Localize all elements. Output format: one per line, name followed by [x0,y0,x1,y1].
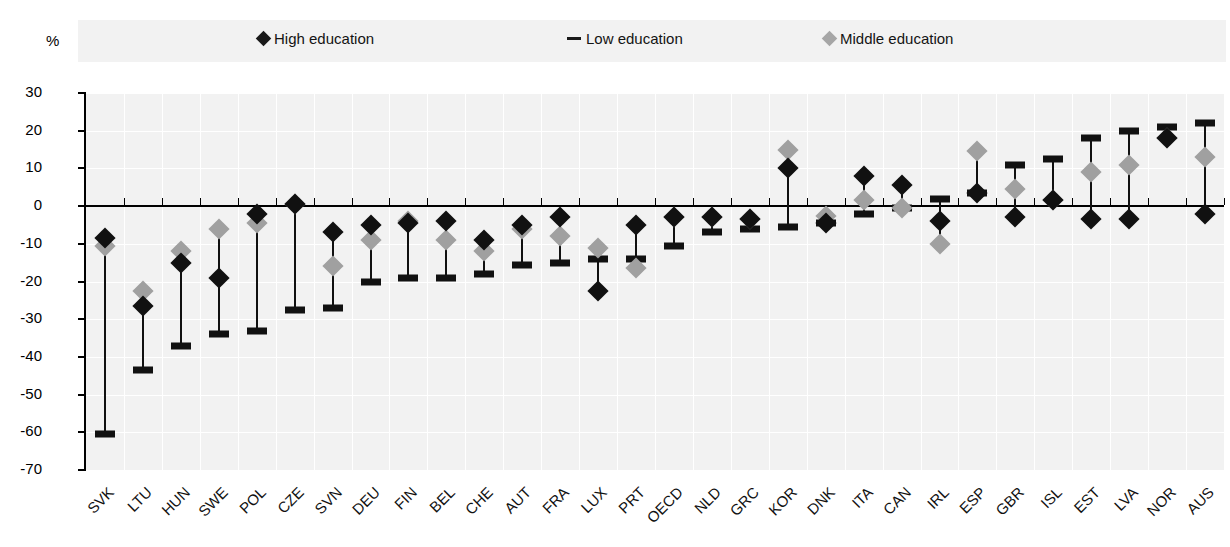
gridline-x [352,93,353,470]
marker-high-education-lux[interactable] [587,280,608,301]
gridline-x [1186,93,1187,470]
marker-middle-education-gbr[interactable] [1005,179,1026,200]
gridline-x [1110,93,1111,470]
y-axis-unit-label: % [46,32,60,49]
marker-low-education-bel[interactable] [436,274,456,281]
marker-low-education-oecd[interactable] [664,242,684,249]
x-tick-label-ltu: LTU [106,483,155,532]
gridline-x [693,93,694,470]
marker-high-education-deu[interactable] [360,214,381,235]
marker-low-education-svk[interactable] [95,431,115,438]
marker-high-education-prt[interactable] [625,214,646,235]
marker-low-education-cze[interactable] [285,306,305,313]
marker-high-education-fra[interactable] [550,207,571,228]
marker-low-education-aus[interactable] [1195,120,1215,127]
gridline-x [314,93,315,470]
x-tick [807,198,808,205]
marker-low-education-deu[interactable] [361,278,381,285]
marker-middle-education-est[interactable] [1081,162,1102,183]
marker-low-education-kor[interactable] [778,223,798,230]
marker-high-education-kor[interactable] [777,158,798,179]
marker-low-education-irl[interactable] [930,195,950,202]
legend-label-high-education: High education [274,30,374,47]
marker-high-education-cze[interactable] [284,194,305,215]
x-tick [693,198,694,205]
marker-low-education-fin[interactable] [398,274,418,281]
y-tick--40 [78,356,86,358]
marker-high-education-ltu[interactable] [132,295,153,316]
range-stem [1204,123,1206,213]
marker-high-education-esp[interactable] [967,182,988,203]
marker-low-education-svn[interactable] [323,304,343,311]
y-tick--50 [78,394,86,396]
marker-low-education-hun[interactable] [171,342,191,349]
gridline-x [1034,93,1035,470]
x-tick [1072,198,1073,205]
x-tick [958,198,959,205]
marker-high-education-can[interactable] [891,175,912,196]
x-tick-label-kor: KOR [751,483,800,532]
marker-high-education-swe[interactable] [208,267,229,288]
x-tick [1186,198,1187,205]
x-tick [276,198,277,205]
gridline-x [276,93,277,470]
marker-high-education-hun[interactable] [170,252,191,273]
gridline-x [958,93,959,470]
marker-low-education-ita[interactable] [854,210,874,217]
x-tick-label-nor: NOR [1130,483,1179,532]
x-tick-label-swe: SWE [182,483,231,532]
marker-low-education-aut[interactable] [512,261,532,268]
x-tick-label-lva: LVA [1092,483,1141,532]
marker-middle-education-bel[interactable] [436,229,457,250]
marker-middle-education-aus[interactable] [1194,146,1215,167]
marker-low-education-isl[interactable] [1043,155,1063,162]
x-tick [579,198,580,205]
marker-low-education-che[interactable] [474,270,494,277]
marker-low-education-est[interactable] [1081,135,1101,142]
gridline-x [883,93,884,470]
marker-middle-education-lva[interactable] [1119,154,1140,175]
marker-high-education-irl[interactable] [929,211,950,232]
x-tick [921,198,922,205]
marker-middle-education-swe[interactable] [208,218,229,239]
marker-middle-education-ita[interactable] [853,190,874,211]
marker-low-education-swe[interactable] [209,331,229,338]
x-tick [352,198,353,205]
y-tick-label-30: 30 [0,83,42,100]
y-tick-0 [78,205,86,207]
marker-high-education-bel[interactable] [436,211,457,232]
marker-high-education-isl[interactable] [1043,190,1064,211]
marker-middle-education-esp[interactable] [967,141,988,162]
marker-high-education-est[interactable] [1081,209,1102,230]
legend-item-low-education[interactable]: Low education [567,30,683,47]
y-tick--30 [78,318,86,320]
marker-high-education-oecd[interactable] [663,207,684,228]
marker-high-education-gbr[interactable] [1005,207,1026,228]
gridline-x [1072,93,1073,470]
diamond-gray-icon [822,31,838,47]
marker-low-education-pol[interactable] [247,327,267,334]
marker-low-education-nld[interactable] [702,229,722,236]
x-tick-label-est: EST [1054,483,1103,532]
marker-high-education-svn[interactable] [322,222,343,243]
gridline-x [921,93,922,470]
x-tick [769,198,770,205]
gridline-y--70 [86,470,1224,471]
y-tick-label--40: -40 [0,347,42,364]
marker-high-education-lva[interactable] [1119,209,1140,230]
x-tick [1148,198,1149,205]
marker-low-education-ltu[interactable] [133,367,153,374]
legend-item-high-education[interactable]: High education [258,30,374,47]
marker-middle-education-can[interactable] [891,197,912,218]
y-tick-20 [78,130,86,132]
marker-low-education-lva[interactable] [1119,127,1139,134]
gridline-x [200,93,201,470]
marker-low-education-fra[interactable] [550,259,570,266]
marker-low-education-gbr[interactable] [1005,161,1025,168]
legend-item-middle-education[interactable]: Middle education [824,30,953,47]
marker-middle-education-irl[interactable] [929,233,950,254]
x-tick-label-nld: NLD [675,483,724,532]
marker-middle-education-svn[interactable] [322,256,343,277]
marker-high-education-nld[interactable] [701,207,722,228]
x-tick [541,198,542,205]
